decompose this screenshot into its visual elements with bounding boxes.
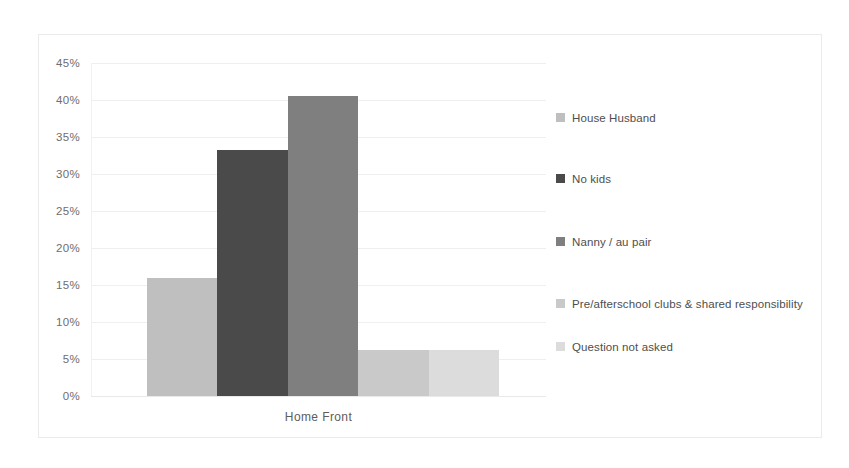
legend-item[interactable]: Pre/afterschool clubs & shared responsib… — [556, 297, 806, 312]
plot-area: 45%40%35%30%25%20%15%10%5%0% Home Front — [91, 63, 546, 396]
bar-nanny-au-pair[interactable] — [288, 96, 358, 396]
bar-series-group — [91, 63, 546, 396]
x-axis-category-label: Home Front — [91, 410, 546, 424]
y-axis-tick-label: 30% — [56, 168, 80, 180]
y-axis-tick-label: 10% — [56, 316, 80, 328]
legend-item-label: No kids — [572, 172, 611, 187]
y-axis-tick-label: 0% — [63, 390, 80, 402]
legend-swatch-icon — [556, 174, 565, 183]
legend-item[interactable]: House Husband — [556, 111, 806, 126]
legend-item-label: Pre/afterschool clubs & shared responsib… — [572, 297, 803, 312]
legend-swatch-icon — [556, 299, 565, 308]
bar-house-husband[interactable] — [147, 278, 217, 396]
y-axis-tick-label: 35% — [56, 131, 80, 143]
legend-swatch-icon — [556, 237, 565, 246]
legend-item-label: Question not asked — [572, 340, 673, 355]
y-axis-tick-label: 25% — [56, 205, 80, 217]
legend-item[interactable]: Question not asked — [556, 340, 806, 355]
legend-item[interactable]: No kids — [556, 172, 806, 187]
y-axis-tick-label: 20% — [56, 242, 80, 254]
bar-question-not-asked[interactable] — [429, 350, 499, 396]
y-axis-tick-label: 45% — [56, 57, 80, 69]
gridline — [91, 396, 546, 397]
chart-frame: 45%40%35%30%25%20%15%10%5%0% Home Front … — [38, 34, 822, 438]
legend-swatch-icon — [556, 342, 565, 351]
bar-no-kids[interactable] — [217, 150, 287, 396]
y-axis-tick-label: 15% — [56, 279, 80, 291]
y-axis-tick-label: 40% — [56, 94, 80, 106]
y-axis-tick-label: 5% — [63, 353, 80, 365]
legend-item-label: House Husband — [572, 111, 656, 126]
legend-item-label: Nanny / au pair — [572, 235, 652, 250]
legend-item[interactable]: Nanny / au pair — [556, 235, 806, 250]
legend-swatch-icon — [556, 113, 565, 122]
bar-pre-afterschool-clubs-shared-responsibility[interactable] — [358, 350, 428, 396]
